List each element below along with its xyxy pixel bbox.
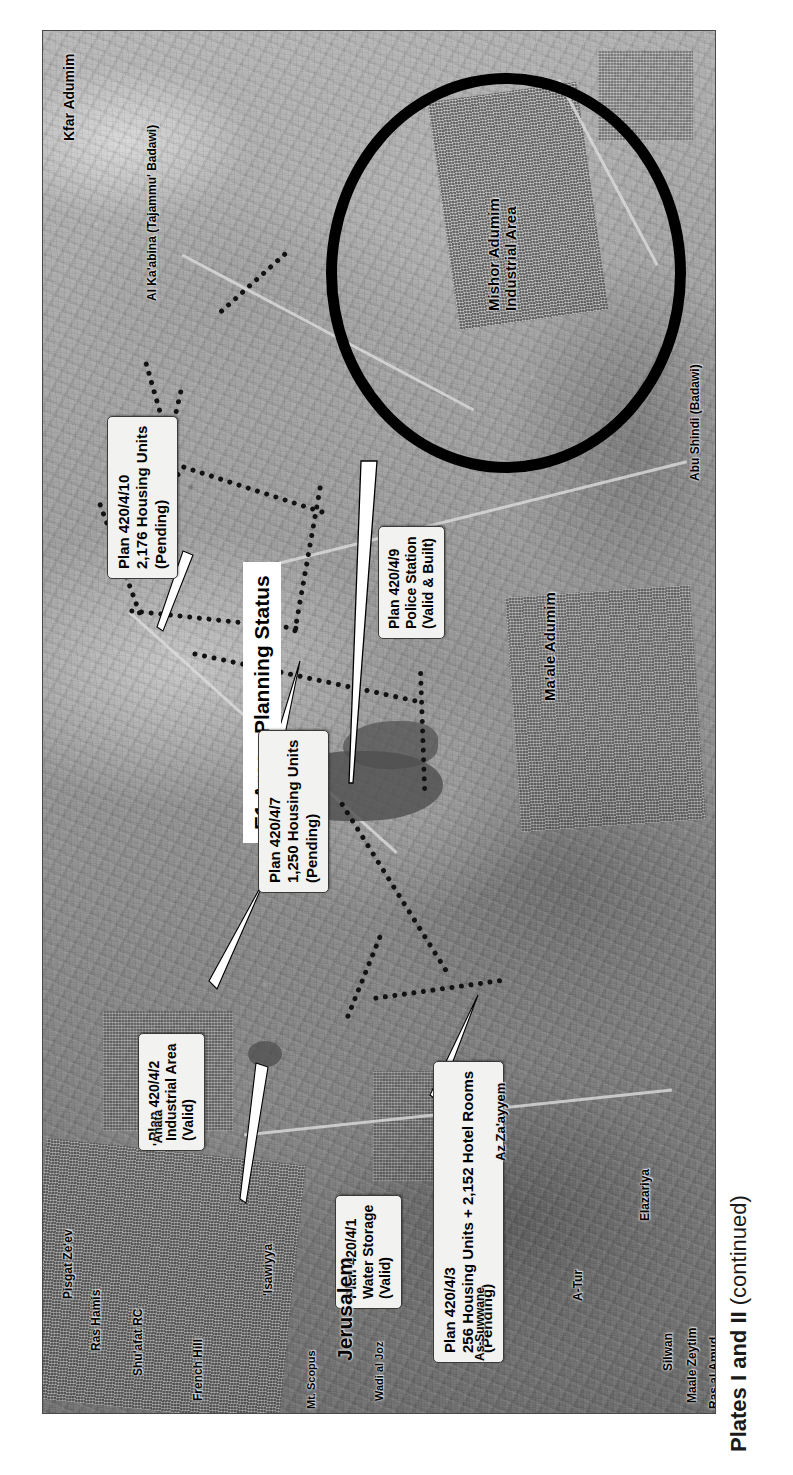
place-label-shuafat-rc: Shu'afat RC [131, 1308, 145, 1376]
caption-suffix: (continued) [726, 1195, 751, 1311]
place-label-pisgat-zeev: Pisgat Ze'ev [61, 1229, 75, 1299]
callout-plan-420-4-2[interactable]: Plan 420/4/2 Industrial Area (Valid) [138, 1033, 205, 1151]
place-label-jerusalem: Jerusalem [333, 1257, 357, 1361]
place-label-ras-hamis: Ras Hamis [89, 1290, 103, 1351]
figure-caption: Plates I and II (continued) [726, 1195, 752, 1452]
place-label-a-tur: A-Tur [571, 1270, 585, 1301]
place-label-french-hill: French Hill [191, 1339, 205, 1401]
leader-line-plan-420-4-1 [228, 1061, 308, 1211]
place-label-as-suwwane: As-Suwwane [473, 1287, 487, 1361]
place-label-anata: 'Anata [151, 1110, 165, 1146]
place-label-silwan: Silwan [661, 1333, 675, 1371]
place-label-mishor-adumim: Mishor Adumim Industrial Area [485, 198, 520, 311]
callout-plan-420-4-10[interactable]: Plan 420/4/10 2,176 Housing Units (Pendi… [107, 416, 178, 579]
map-plate: E1 Area - Planning Status Plan 420/4/10 … [42, 30, 716, 1414]
place-label-abu-shindi: Abu Shindi (Badawi) [688, 364, 702, 481]
place-label-al-karabina: Al Ka'abina (Tajammu' Badawi) [145, 125, 159, 301]
place-label-maale-zeytim: Maale Zeytim [685, 1328, 699, 1403]
place-label-maale-adumim: Ma'ale Adumim [541, 592, 558, 701]
place-label-wadi-al-joz: Wadi al Joz [373, 1342, 385, 1402]
place-label-kfar-adumim: Kfar Adumim [61, 54, 77, 141]
caption-main: Plates I and II [726, 1311, 751, 1452]
place-label-isawiyya: 'Isawiyya [261, 1244, 275, 1296]
callout-plan-420-4-9[interactable]: Plan 420/4/9 Police Station (Valid & Bui… [378, 526, 445, 639]
place-label-az-zaayyem: Az Za'ayyem [493, 1083, 508, 1161]
urban-patch-maale-adumim [505, 585, 706, 832]
place-label-ras-al-amud: Ras al Amud [707, 1337, 716, 1409]
place-label-mt-scopus: Mt. Scopus [305, 1350, 317, 1409]
callout-plan-420-4-7[interactable]: Plan 420/4/7 1,250 Housing Units (Pendin… [258, 730, 329, 893]
place-label-elazariya: Elazariya [638, 1169, 652, 1221]
